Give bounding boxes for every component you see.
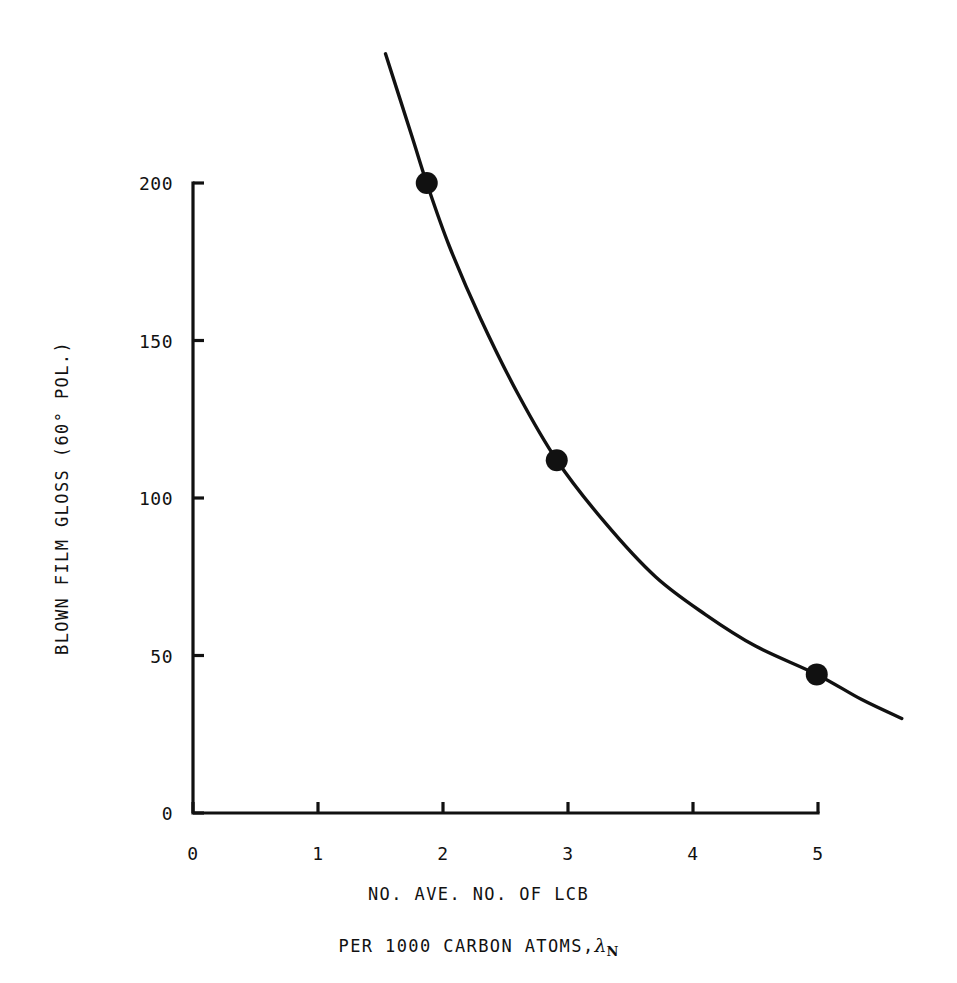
data-point-marker xyxy=(416,172,438,194)
lambda-subscript: N xyxy=(607,944,619,959)
axis-lines xyxy=(193,183,818,813)
x-tick-label: 0 xyxy=(187,843,198,864)
lambda-symbol: λ xyxy=(595,934,607,956)
y-tick-label: 100 xyxy=(139,488,173,509)
x-tick-label: 1 xyxy=(312,843,323,864)
x-axis-title-line1: NO. AVE. NO. OF LCB xyxy=(0,884,957,904)
data-curve xyxy=(386,54,902,719)
x-tick-label: 2 xyxy=(437,843,448,864)
y-tick-label: 0 xyxy=(162,803,173,824)
x-tick-label: 5 xyxy=(812,843,823,864)
data-point-marker xyxy=(806,663,828,685)
x-tick-label: 4 xyxy=(687,843,698,864)
axis-ticks xyxy=(193,183,818,813)
x-tick-label: 3 xyxy=(562,843,573,864)
data-markers xyxy=(416,172,828,685)
y-tick-label: 50 xyxy=(150,645,173,666)
x-axis-title-line2-text: PER 1000 CARBON ATOMS, xyxy=(339,936,595,956)
data-point-marker xyxy=(546,449,568,471)
y-tick-label: 200 xyxy=(139,173,173,194)
chart-figure: BLOWN FILM GLOSS (60° POL.) 050100150200… xyxy=(0,0,957,983)
x-axis-title-line2: PER 1000 CARBON ATOMS,λN xyxy=(0,934,957,959)
y-tick-label: 150 xyxy=(139,330,173,351)
